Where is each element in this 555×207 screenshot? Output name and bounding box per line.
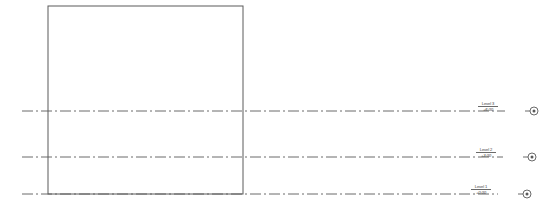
level-datum-circle-icon — [523, 153, 536, 161]
level-datum-label: Level 2+3.00 — [469, 148, 503, 158]
level-name: Level 1 — [464, 185, 498, 189]
level-elevation-value: +0.00 — [464, 191, 498, 195]
level-datum-circle-icon — [525, 107, 538, 115]
building-outline-group — [48, 6, 243, 194]
level-datum-label: Level 1+0.00 — [464, 185, 498, 195]
level-elevation-value: +3.00 — [469, 154, 503, 158]
level-datum-label: Level 3+6.00 — [471, 102, 505, 112]
elevation-drawing-canvas: Level 3+6.00Level 2+3.00Level 1+0.00 — [0, 0, 555, 207]
level-elevation-value: +6.00 — [471, 108, 505, 112]
building-outline — [48, 6, 243, 194]
level-name: Level 3 — [471, 102, 505, 106]
level-datum-circle-icon — [518, 190, 531, 198]
level-centerlines-group — [22, 111, 505, 194]
level-datum-markers-group — [518, 107, 538, 198]
level-name: Level 2 — [469, 148, 503, 152]
